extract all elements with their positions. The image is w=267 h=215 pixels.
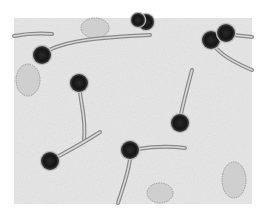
phage-head <box>33 46 51 64</box>
micrograph <box>0 0 267 215</box>
phage-head <box>217 24 235 42</box>
debris-cluster <box>81 18 109 38</box>
phage-head <box>121 141 139 159</box>
phage-head <box>41 152 59 170</box>
debris-cluster <box>222 162 246 198</box>
debris-cluster <box>147 183 173 203</box>
debris-cluster <box>16 64 40 96</box>
phage-head <box>70 74 88 92</box>
phage-head <box>131 13 145 27</box>
phage-head <box>171 114 189 132</box>
